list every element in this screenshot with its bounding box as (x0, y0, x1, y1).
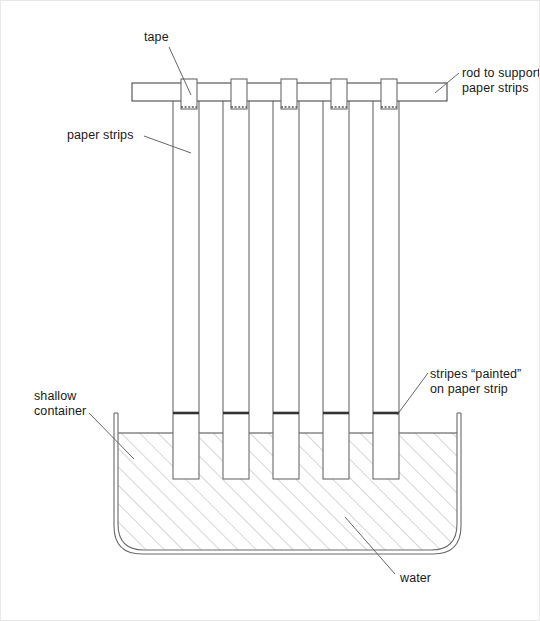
paper-strip-body (173, 91, 199, 479)
label-rod-line2: paper strips (462, 81, 529, 95)
tape-piece (231, 79, 247, 109)
paper-strip-body (223, 91, 249, 479)
paper-strip (273, 91, 299, 479)
diagram-canvas: tape rod to supportpaper strips paper st… (0, 0, 540, 621)
label-water: water (400, 571, 431, 586)
tape-piece (181, 79, 197, 109)
label-water-text: water (400, 571, 431, 585)
paper-strip (323, 91, 349, 479)
paper-strip (173, 91, 199, 479)
label-stripes: stripes “painted”on paper strip (430, 367, 521, 397)
leader-stripes (397, 373, 428, 415)
tape-piece (331, 79, 347, 109)
label-paper-strips-text: paper strips (67, 128, 134, 142)
label-rod-line1: rod to support (462, 66, 540, 80)
label-paper-strips: paper strips (67, 128, 134, 143)
label-shallow-container: shallowcontainer (34, 389, 86, 419)
paper-strip-body (323, 91, 349, 479)
tape-body (231, 79, 247, 109)
tape-body (281, 79, 297, 109)
tape-body (381, 79, 397, 109)
label-tape-text: tape (144, 30, 169, 44)
paper-strip (373, 91, 399, 479)
tape-piece (281, 79, 297, 109)
paper-strips-group (173, 91, 399, 479)
paper-strip-body (273, 91, 299, 479)
tape-body (181, 79, 197, 109)
label-shallow-line2: container (34, 404, 86, 418)
label-stripes-line2: on paper strip (430, 382, 508, 396)
paper-strip-body (373, 91, 399, 479)
tape-piece (381, 79, 397, 109)
label-shallow-line1: shallow (34, 389, 76, 403)
label-stripes-line1: stripes “painted” (430, 367, 521, 381)
label-rod: rod to supportpaper strips (462, 66, 540, 96)
apparatus-diagram (1, 1, 540, 621)
label-tape: tape (144, 30, 169, 45)
paper-strip (223, 91, 249, 479)
tape-body (331, 79, 347, 109)
